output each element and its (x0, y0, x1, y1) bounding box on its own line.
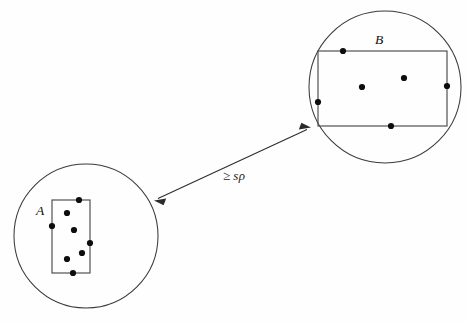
relation-symbol: ≥ (223, 168, 230, 183)
data-point (71, 227, 77, 233)
separation-arrow-group (154, 123, 311, 205)
separation-diagram: A B ≥sρ (0, 0, 467, 323)
separation-arrow-line (158, 129, 307, 198)
cluster-circle-b (309, 11, 461, 163)
cluster-label-a: A (35, 203, 45, 218)
cluster-group-a: A (14, 164, 158, 308)
data-point (76, 197, 82, 203)
bounding-box-a (52, 200, 90, 273)
data-point (359, 84, 365, 90)
data-point (70, 270, 76, 276)
cluster-group-b: B (309, 11, 461, 163)
data-point (64, 256, 70, 262)
data-point (315, 99, 321, 105)
data-point (340, 48, 346, 54)
data-point (388, 123, 394, 129)
point-set-b (315, 48, 450, 129)
separation-distance-label: ≥sρ (223, 168, 245, 183)
point-set-a (49, 197, 93, 276)
cluster-label-b: B (375, 32, 383, 47)
data-point (79, 250, 85, 256)
data-point (64, 210, 70, 216)
data-point (401, 75, 407, 81)
bounding-box-b (318, 51, 447, 126)
cluster-circle-a (14, 164, 158, 308)
arrow-head-right-icon (299, 123, 311, 130)
scale-variable: s (233, 168, 238, 183)
arrow-head-left-icon (154, 199, 166, 206)
rho-parameter: ρ (238, 168, 245, 183)
data-point (49, 223, 55, 229)
figure-canvas: A B ≥sρ (0, 0, 467, 323)
data-point (444, 83, 450, 89)
data-point (87, 240, 93, 246)
